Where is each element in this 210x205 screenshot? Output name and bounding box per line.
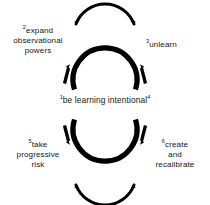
label-create-text: create and recalibrate [156, 140, 195, 169]
diagram-canvas: 2expand observational powers 3unlearn 1b… [0, 0, 210, 205]
label-be-learning-intentional: 1be learning intentional4 [30, 95, 180, 105]
top-circle-ring [73, 48, 137, 90]
label-center-number-after: 4 [147, 94, 150, 100]
label-center-text: be learning intentional [63, 95, 147, 105]
top-left-arrow-icon [65, 64, 70, 83]
bottom-circle-ring [73, 120, 137, 162]
label-expand-text: expand observational powers [13, 26, 62, 55]
label-risk-text: take progressive risk [17, 140, 60, 169]
label-unlearn-text: unlearn [149, 40, 177, 49]
bottom-outer-arc-arrow-icon [74, 185, 135, 205]
label-take-progressive-risk: 5take progressive risk [2, 140, 74, 171]
label-unlearn: 3unlearn [146, 40, 208, 50]
label-create-and-recalibrate: 6create and recalibrate [142, 140, 208, 171]
top-outer-arc-arrow-icon [74, 4, 135, 24]
label-expand-observational-powers: 2expand observational powers [2, 26, 74, 57]
top-right-arrow-icon [140, 64, 145, 83]
